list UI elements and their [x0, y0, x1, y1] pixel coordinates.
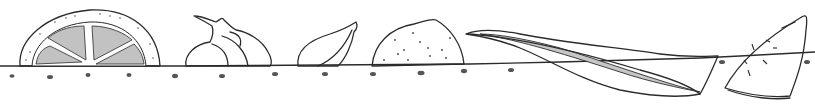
food-border-illustration	[0, 0, 815, 109]
garlic-icon	[186, 16, 272, 66]
melon-wedge-icon	[725, 16, 807, 99]
lime-icon	[372, 19, 464, 66]
shallot-icon	[298, 22, 357, 66]
citrus-slice-icon	[20, 10, 160, 66]
